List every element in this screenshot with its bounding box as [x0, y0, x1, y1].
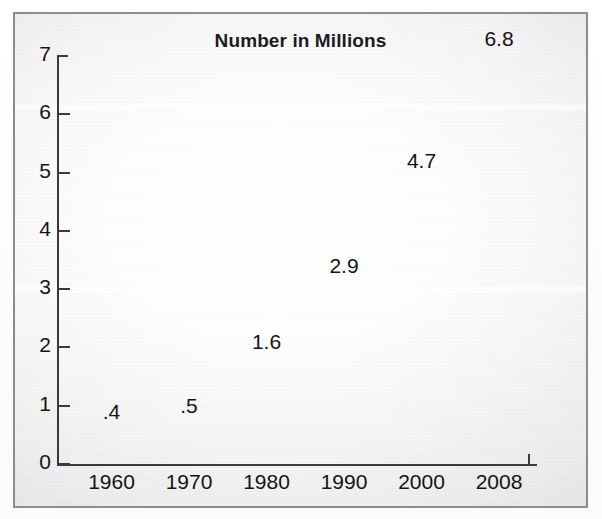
chart-frame: Number in Millions 76543210 .4.51.62.94.…	[13, 12, 588, 508]
x-axis-line	[57, 464, 537, 466]
y-axis-tick-label: 5	[15, 159, 51, 183]
bar-value-label: 1.6	[224, 330, 309, 354]
y-axis-tick	[59, 346, 70, 348]
plot-area: Number in Millions 76543210 .4.51.62.94.…	[15, 14, 586, 506]
bar-value-label: 6.8	[457, 27, 542, 51]
x-axis-label-2000: 2000	[377, 470, 466, 494]
y-axis-tick-label: 2	[15, 333, 51, 357]
y-axis-tick	[59, 113, 70, 115]
x-axis-label-2008: 2008	[455, 470, 544, 494]
y-axis-tick-label: 0	[15, 450, 51, 474]
bar-value-label: .4	[69, 400, 154, 424]
y-axis-top-cap	[57, 55, 68, 57]
chart-screenshot: Number in Millions 76543210 .4.51.62.94.…	[0, 0, 602, 519]
x-axis-label-1990: 1990	[300, 470, 389, 494]
y-axis-tick	[59, 172, 70, 174]
x-axis-label-1960: 1960	[67, 470, 156, 494]
y-axis-tick-label: 6	[15, 100, 51, 124]
x-axis-right-cap	[528, 454, 530, 466]
x-axis-label-1970: 1970	[145, 470, 234, 494]
y-axis-tick	[59, 230, 70, 232]
bar-value-label: 2.9	[302, 254, 387, 278]
bar-value-label: 4.7	[379, 149, 464, 173]
bar-value-label: .5	[147, 394, 232, 418]
y-axis-tick	[59, 288, 70, 290]
y-axis-tick-label: 4	[15, 217, 51, 241]
y-axis-tick-label: 1	[15, 392, 51, 416]
y-axis-tick-label: 3	[15, 275, 51, 299]
x-axis-label-1980: 1980	[222, 470, 311, 494]
y-axis-tick-label: 7	[15, 42, 51, 66]
y-axis-tick	[59, 463, 70, 465]
